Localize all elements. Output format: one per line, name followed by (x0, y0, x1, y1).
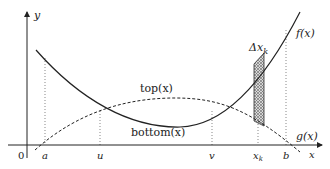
delta-x-strip (254, 53, 264, 126)
x-axis-label: x (309, 149, 315, 160)
tick-a: a (42, 150, 48, 161)
g-label: g(x) (296, 130, 318, 143)
bottom-label: bottom(x) (131, 126, 185, 139)
top-label: top(x) (140, 82, 173, 95)
tick-b: b (283, 150, 289, 161)
tick-xk: xk (253, 150, 263, 163)
y-axis-label: y (33, 9, 41, 22)
tick-u: u (97, 150, 103, 161)
tick-v: v (209, 150, 215, 161)
area-between-curves-diagram: y x 0 f(x) g(x) top(x) bottom(x) Δxk a u… (0, 0, 330, 169)
delta-x-label: Δxk (248, 41, 268, 56)
f-label: f(x) (295, 27, 315, 40)
origin-label: 0 (18, 150, 24, 161)
